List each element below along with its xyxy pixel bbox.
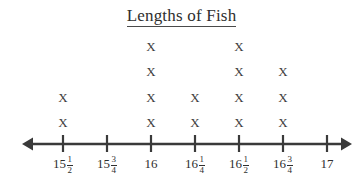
fraction-denominator: 2	[67, 165, 74, 175]
fraction-numerator: 1	[67, 155, 74, 164]
fraction-denominator: 4	[199, 165, 206, 175]
line-plot-figure: Lengths of Fish XXXXXXXXXXXXXXX 15121534…	[0, 0, 363, 194]
tick-label-whole: 15	[53, 156, 66, 171]
fraction-denominator: 4	[111, 165, 118, 175]
tick-label-fraction: 34	[111, 155, 118, 175]
fraction-numerator: 3	[111, 155, 118, 164]
fraction-numerator: 1	[199, 155, 206, 164]
fraction-numerator: 1	[243, 155, 250, 164]
axis-tick-label: 1612	[229, 156, 249, 176]
axis-tick-label: 1614	[185, 156, 205, 176]
fraction-denominator: 4	[287, 165, 294, 175]
axis-tick-label: 16	[145, 156, 158, 171]
tick-label-whole: 16	[145, 156, 158, 171]
tick-label-whole: 16	[229, 156, 242, 171]
axis-arrow-left-icon	[22, 138, 33, 151]
fraction-numerator: 3	[287, 155, 294, 164]
tick-label-whole: 16	[185, 156, 198, 171]
axis-tick-label: 1634	[273, 156, 293, 176]
fraction-denominator: 2	[243, 165, 250, 175]
axis-tick-label: 1512	[53, 156, 73, 176]
tick-label-fraction: 12	[243, 155, 250, 175]
axis-tick-label: 1534	[97, 156, 117, 176]
axis-arrow-right-icon	[341, 138, 352, 151]
tick-label-whole: 15	[97, 156, 110, 171]
tick-label-fraction: 34	[287, 155, 294, 175]
tick-label-whole: 17	[321, 156, 334, 171]
tick-label-whole: 16	[273, 156, 286, 171]
axis-tick-label: 17	[321, 156, 334, 171]
tick-label-fraction: 12	[67, 155, 74, 175]
tick-label-fraction: 14	[199, 155, 206, 175]
